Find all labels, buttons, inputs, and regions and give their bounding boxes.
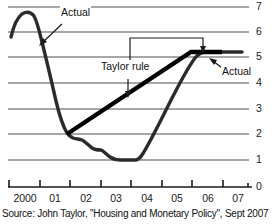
y-tick-7: 7	[256, 0, 262, 12]
x-axis-ticks	[9, 180, 248, 187]
y-tick-5: 5	[256, 50, 262, 62]
chart-plot-area	[0, 0, 278, 224]
annotation-label-actual-left: Actual	[60, 6, 91, 18]
annotation-label-actual-right: Actual	[221, 65, 252, 77]
chart-figure: Actual Taylor rule Actual 7 6 5 4 3 2 1 …	[0, 0, 278, 224]
y-tick-4: 4	[256, 76, 262, 88]
annotation-label-taylor-rule: Taylor rule	[100, 60, 150, 72]
y-tick-2: 2	[256, 127, 262, 139]
series-actual	[11, 12, 242, 160]
y-tick-3: 3	[256, 102, 262, 114]
y-tick-6: 6	[256, 25, 262, 37]
y-tick-1: 1	[256, 153, 262, 165]
x-tick-07: 07	[218, 192, 258, 204]
y-tick-0: 0	[256, 180, 262, 192]
annotation-arrow-actual-left	[39, 24, 62, 46]
source-note: Source: John Taylor, "Housing and Moneta…	[2, 208, 276, 219]
